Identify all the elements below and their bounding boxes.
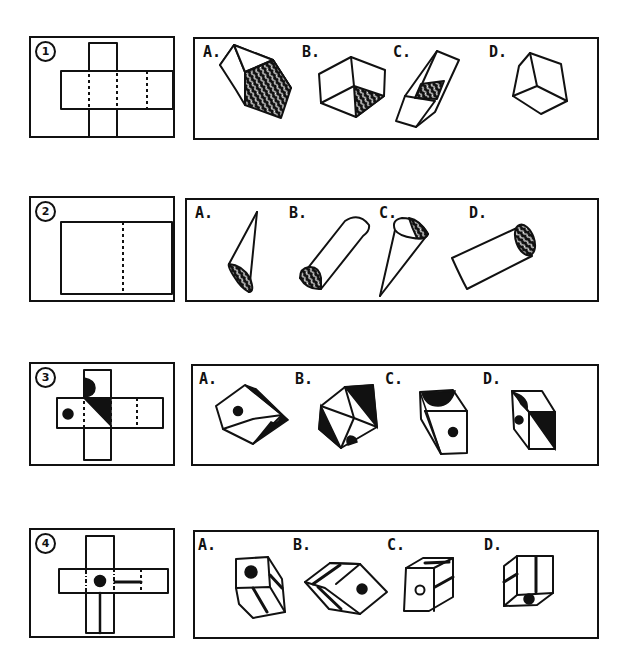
problem-2-option-figures[interactable] [187,200,601,304]
problem-3-net-panel: 3 [29,362,175,466]
problem-3-option-figures[interactable] [193,366,601,468]
cube-net-figure [31,530,177,640]
problem-4-options-panel: A. B. C. D. [193,530,599,639]
problem-4-option-figures[interactable] [195,532,601,641]
problem-1-net-panel: 1 [29,36,175,138]
problem-1-options-panel: A. B. C. D. [193,37,599,140]
problem-3-options-panel: A. B. C. D. [191,364,599,466]
problem-4-net-panel: 4 [29,528,175,638]
problem-2-options-panel: A. B. C. D. [185,198,599,302]
problem-2-net-panel: 2 [29,196,175,302]
cube-net-figure [31,38,177,140]
cube-net-figure [31,364,177,468]
problem-1-option-figures[interactable] [195,39,601,142]
rectangle-net-figure [31,198,177,304]
